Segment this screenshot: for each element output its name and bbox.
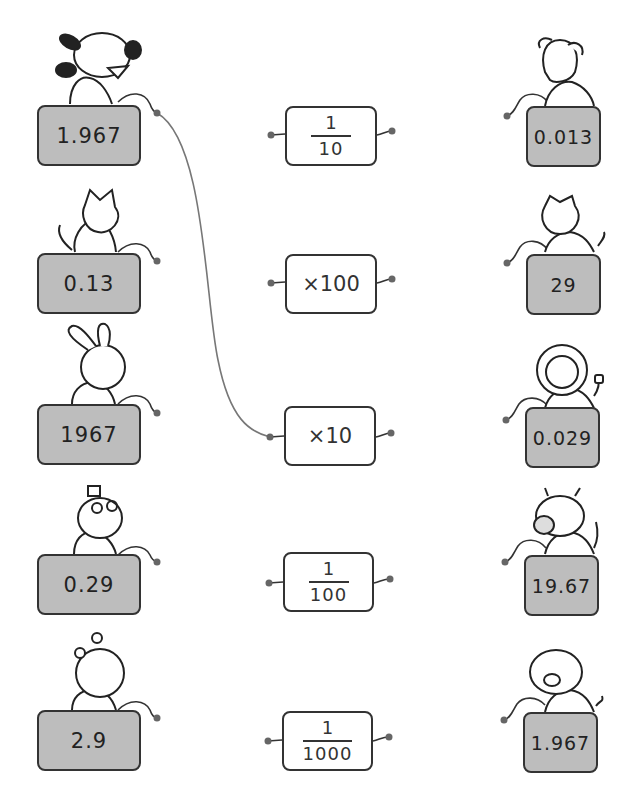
animal-bear-icon [72,633,124,710]
numerator: 1 [323,560,334,581]
operator-label: ×10 [308,424,352,448]
right-card-5[interactable]: 1.967 [523,712,598,773]
denominator: 10 [319,137,344,158]
operator-box-1[interactable]: 1 10 [285,106,377,166]
fraction: 1 1000 [303,719,353,763]
right-card-2[interactable]: 29 [526,254,601,315]
left-card-3[interactable]: 1967 [37,404,141,465]
operator-box-4[interactable]: 1 100 [283,552,374,612]
left-card-5[interactable]: 2.9 [37,710,141,771]
left-card-value: 0.29 [64,573,115,597]
right-card-value: 0.029 [533,427,592,449]
denominator: 100 [310,583,347,604]
right-card-1[interactable]: 0.013 [526,106,601,167]
connection-line [157,113,270,437]
operator-label: ×100 [302,272,360,296]
animal-pig-icon [530,650,603,712]
left-card-value: 1967 [60,423,117,447]
fraction: 1 10 [311,114,351,158]
right-card-value: 19.67 [532,575,591,597]
numerator: 1 [322,719,333,740]
animal-cat-icon [59,190,118,252]
right-card-value: 1.967 [531,732,590,754]
left-card-value: 0.13 [64,272,115,296]
left-card-1[interactable]: 1.967 [37,105,141,166]
fraction: 1 100 [309,560,349,604]
right-card-value: 29 [550,274,576,296]
left-card-value: 2.9 [71,729,107,753]
animal-dog-icon [56,31,141,104]
animal-puppy-icon [539,38,594,106]
animal-lion-icon [537,345,603,408]
numerator: 1 [325,114,336,135]
denominator: 1000 [303,742,353,763]
left-card-2[interactable]: 0.13 [37,253,141,314]
right-card-4[interactable]: 19.67 [524,555,599,616]
animal-rabbit-icon [69,324,125,404]
animal-cow-icon [534,488,597,554]
right-card-3[interactable]: 0.029 [525,407,600,468]
left-card-value: 1.967 [56,124,121,148]
animal-mouse-icon [74,486,122,554]
right-card-value: 0.013 [534,126,593,148]
left-card-4[interactable]: 0.29 [37,554,141,615]
operator-box-5[interactable]: 1 1000 [282,711,373,771]
matching-worksheet: 1.967 0.13 1967 0.29 2.9 1 10 ×100 ×10 1… [0,0,636,807]
operator-box-2[interactable]: ×100 [285,254,377,314]
animal-cat-icon-right [542,196,604,252]
operator-box-3[interactable]: ×10 [284,406,376,466]
